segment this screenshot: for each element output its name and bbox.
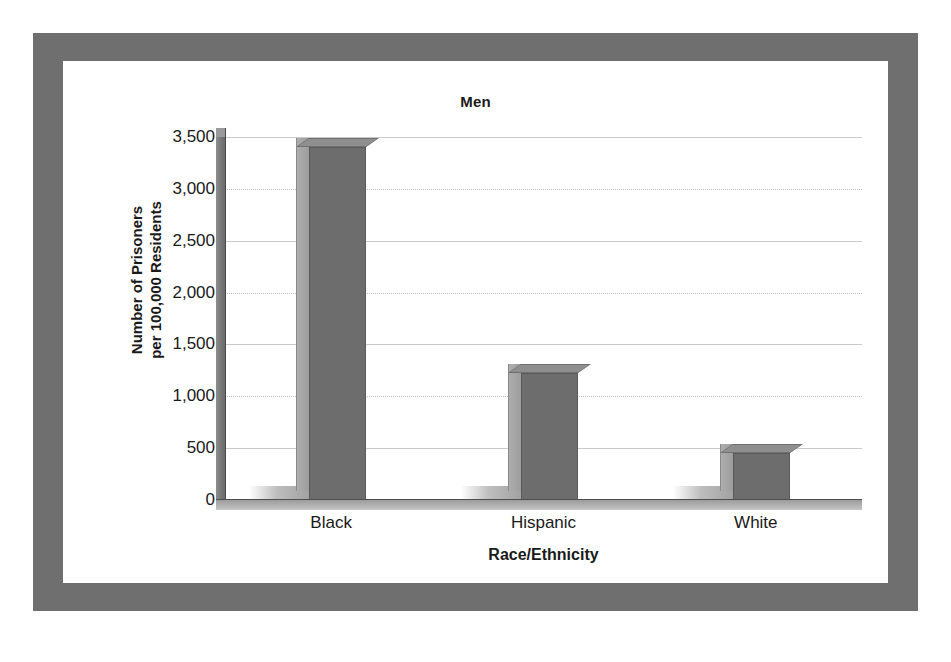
bar-top-face [508, 364, 591, 373]
chart-title: Men [63, 93, 888, 110]
y-axis-tick-label: 2,500 [65, 231, 215, 251]
bar-black [309, 138, 366, 500]
floor-slab-3d [216, 500, 862, 510]
bar-hispanic [521, 364, 578, 500]
plot-area [225, 137, 862, 500]
left-wall-cap-3d [216, 128, 225, 137]
bar-chart: Men Number of Prisoners per 100,000 Resi… [63, 61, 888, 583]
bar-front-face [309, 147, 366, 500]
bar-white [733, 444, 790, 500]
bar-front-face [521, 373, 578, 500]
left-wall-3d [216, 128, 225, 500]
x-axis-title: Race/Ethnicity [225, 546, 862, 564]
x-axis-tick-label: Hispanic [511, 513, 576, 533]
x-axis-tick-label: Black [310, 513, 352, 533]
x-axis-tick-labels: BlackHispanicWhite [225, 513, 862, 539]
bar-front-face [733, 453, 790, 500]
y-axis-line [225, 128, 226, 500]
bar-top-face [720, 444, 803, 453]
y-axis-tick-labels: 3,5003,0002,5002,0001,5001,0005000 [63, 137, 215, 500]
scanned-page: Men Number of Prisoners per 100,000 Resi… [0, 0, 951, 662]
bar-top-face [296, 138, 379, 147]
y-axis-tick-label: 0 [65, 490, 215, 510]
y-axis-tick-label: 3,500 [65, 127, 215, 147]
bar-side-face [508, 364, 521, 491]
y-axis-tick-label: 500 [65, 438, 215, 458]
x-axis-tick-label: White [734, 513, 777, 533]
y-axis-tick-label: 2,000 [65, 283, 215, 303]
bar-side-face [296, 138, 309, 491]
y-axis-tick-label: 1,500 [65, 334, 215, 354]
y-axis-tick-label: 3,000 [65, 179, 215, 199]
y-axis-tick-label: 1,000 [65, 386, 215, 406]
